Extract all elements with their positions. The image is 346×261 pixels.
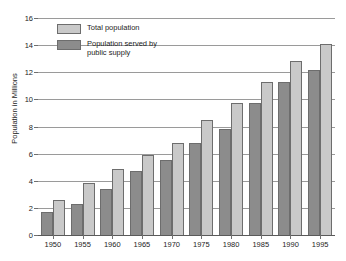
bar-total-population — [261, 82, 273, 235]
y-axis-tick-label: 10 — [25, 95, 33, 104]
bar-population-served — [189, 143, 201, 235]
x-axis-tick-mark — [172, 235, 173, 239]
y-axis-title: Population in Millions — [10, 49, 19, 169]
legend-item-population-served: Population served by public supply — [57, 39, 157, 57]
bar-population-served — [308, 70, 320, 235]
bar-total-population — [231, 103, 243, 235]
y-axis-tick-label: 0 — [29, 231, 33, 240]
x-axis-tick-label: 1960 — [97, 240, 127, 249]
y-axis-tick-label: 2 — [29, 203, 33, 212]
x-axis-tick-label: 1990 — [276, 240, 306, 249]
x-axis-tick-mark — [231, 235, 232, 239]
x-axis-tick-labels: 1950195519601965197019751980198519901995 — [38, 240, 335, 249]
x-axis-tick-label: 1950 — [38, 240, 68, 249]
legend: Total population Population served by pu… — [57, 23, 157, 57]
bar-group — [276, 18, 306, 235]
bar-total-population — [83, 183, 95, 235]
legend-label-total-population: Total population — [87, 23, 140, 32]
x-axis-tick-label: 1985 — [246, 240, 276, 249]
y-axis-tick-label: 4 — [29, 176, 33, 185]
bar-population-served — [71, 204, 83, 235]
bar-population-served — [160, 160, 172, 235]
x-axis-tick-mark — [290, 235, 291, 239]
bar-total-population — [201, 120, 213, 235]
bar-total-population — [142, 155, 154, 235]
bar-total-population — [112, 169, 124, 235]
x-axis-tick-mark — [320, 235, 321, 239]
x-axis-tick-label: 1955 — [68, 240, 98, 249]
y-axis-tick-label: 12 — [25, 68, 33, 77]
bar-population-served — [278, 82, 290, 235]
bar-population-served — [41, 212, 53, 235]
y-axis-tick-label: 14 — [25, 41, 33, 50]
bar-total-population — [53, 200, 65, 235]
x-axis-tick-mark — [112, 235, 113, 239]
x-axis-tick-mark — [201, 235, 202, 239]
bar-group — [157, 18, 187, 235]
x-axis-tick-mark — [261, 235, 262, 239]
bar-population-served — [249, 103, 261, 235]
bar-group — [246, 18, 276, 235]
bar-group — [216, 18, 246, 235]
legend-swatch-total-population — [57, 24, 81, 34]
legend-item-total-population: Total population — [57, 23, 157, 34]
x-axis-tick-mark — [53, 235, 54, 239]
chart-title — [0, 0, 346, 4]
bar-total-population — [172, 143, 184, 235]
x-axis-tick-label: 1975 — [187, 240, 217, 249]
x-axis-tick-label: 1980 — [216, 240, 246, 249]
bar-population-served — [130, 171, 142, 235]
bar-population-served — [219, 129, 231, 235]
legend-swatch-population-served — [57, 40, 81, 50]
legend-label-population-served: Population served by public supply — [87, 39, 157, 57]
x-axis-tick-label: 1995 — [305, 240, 335, 249]
bar-population-served — [100, 189, 112, 235]
bar-group — [305, 18, 335, 235]
y-axis-tick-label: 8 — [29, 122, 33, 131]
y-axis-tick-label: 16 — [25, 14, 33, 23]
x-axis-tick-mark — [142, 235, 143, 239]
bar-total-population — [320, 44, 332, 235]
bar-group — [187, 18, 217, 235]
x-axis-tick-label: 1965 — [127, 240, 157, 249]
x-axis-tick-mark — [83, 235, 84, 239]
bar-total-population — [290, 61, 302, 235]
x-axis-tick-label: 1970 — [157, 240, 187, 249]
y-axis-tick-label: 6 — [29, 149, 33, 158]
bar-chart: Population in Millions 0246810121416 195… — [0, 0, 346, 261]
